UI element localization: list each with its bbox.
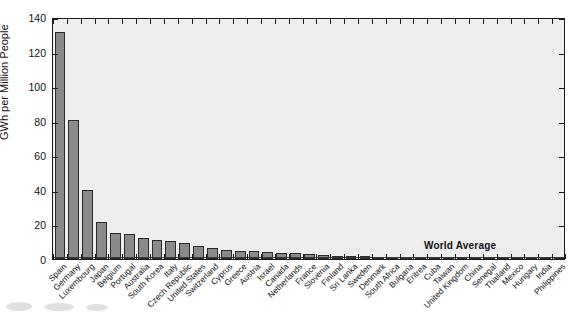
- y-tick-label: 140: [0, 13, 46, 24]
- x-tick-mark: [400, 254, 401, 259]
- x-tick-mark: [441, 254, 442, 259]
- x-tick-mark: [108, 19, 109, 24]
- x-tick-mark: [330, 254, 331, 259]
- x-tick-mark: [330, 19, 331, 24]
- x-tick-mark: [413, 19, 414, 24]
- x-tick-mark: [178, 254, 179, 259]
- x-tick-mark: [441, 19, 442, 24]
- x-tick-mark: [316, 254, 317, 259]
- y-tick-mark: [559, 192, 564, 193]
- x-tick-mark: [455, 19, 456, 24]
- x-tick-mark: [219, 19, 220, 24]
- x-tick-mark: [233, 19, 234, 24]
- y-tick-label: 60: [0, 151, 46, 162]
- scan-artifact: [44, 303, 74, 311]
- bar: [96, 222, 107, 259]
- x-tick-mark: [275, 19, 276, 24]
- x-tick-mark: [164, 19, 165, 24]
- y-tick-mark: [559, 54, 564, 55]
- x-tick-mark: [81, 254, 82, 259]
- x-tick-mark: [344, 254, 345, 259]
- x-tick-mark: [483, 254, 484, 259]
- y-tick-mark: [559, 123, 564, 124]
- x-tick-mark: [427, 19, 428, 24]
- x-tick-mark: [219, 254, 220, 259]
- x-tick-mark: [565, 254, 566, 259]
- x-tick-mark: [483, 19, 484, 24]
- scan-artifact: [86, 304, 108, 311]
- x-tick-mark: [67, 19, 68, 24]
- y-tick-label: 20: [0, 220, 46, 231]
- bar: [124, 234, 135, 259]
- x-tick-mark: [469, 19, 470, 24]
- x-tick-mark: [316, 19, 317, 24]
- bar: [235, 251, 246, 259]
- x-axis-labels: SpainGermanyLuxembourgJapanBelgiumPortug…: [52, 261, 565, 328]
- x-tick-mark: [524, 19, 525, 24]
- x-tick-mark: [247, 254, 248, 259]
- y-tick-mark: [53, 157, 58, 158]
- x-tick-mark: [192, 254, 193, 259]
- y-tick-mark: [53, 226, 58, 227]
- bar: [68, 120, 79, 259]
- world-average-line: [53, 257, 564, 258]
- x-tick-mark: [164, 254, 165, 259]
- x-tick-mark: [386, 19, 387, 24]
- bar: [262, 252, 273, 259]
- x-tick-mark: [122, 19, 123, 24]
- y-tick-mark: [53, 54, 58, 55]
- x-tick-mark: [136, 19, 137, 24]
- plot-area: World Average: [52, 18, 565, 260]
- x-tick-mark: [552, 19, 553, 24]
- y-tick-label: 100: [0, 82, 46, 93]
- x-tick-mark: [303, 19, 304, 24]
- x-tick-mark: [538, 254, 539, 259]
- x-tick-mark: [289, 19, 290, 24]
- bar: [82, 190, 93, 259]
- bar: [55, 32, 66, 259]
- y-tick-label: 0: [0, 255, 46, 266]
- world-average-label: World Average: [424, 240, 496, 251]
- x-tick-mark: [386, 254, 387, 259]
- bars-layer: [53, 19, 564, 259]
- x-tick-mark: [358, 254, 359, 259]
- x-tick-mark: [372, 19, 373, 24]
- x-tick-mark: [150, 19, 151, 24]
- x-tick-mark: [247, 19, 248, 24]
- x-tick-mark: [108, 254, 109, 259]
- y-tick-mark: [559, 226, 564, 227]
- x-tick-mark: [427, 254, 428, 259]
- figure: GWh per Million People 02040608010012014…: [0, 0, 576, 328]
- y-tick-mark: [53, 123, 58, 124]
- y-tick-mark: [559, 88, 564, 89]
- scan-artifact: [6, 302, 32, 311]
- x-tick-mark: [303, 254, 304, 259]
- y-tick-label: 120: [0, 47, 46, 58]
- y-tick-mark: [559, 157, 564, 158]
- y-tick-label: 80: [0, 116, 46, 127]
- y-tick-mark: [53, 88, 58, 89]
- x-tick-mark: [497, 19, 498, 24]
- x-tick-mark: [358, 19, 359, 24]
- bar: [110, 233, 121, 259]
- x-tick-mark: [192, 19, 193, 24]
- x-tick-mark: [469, 254, 470, 259]
- x-tick-mark: [81, 19, 82, 24]
- chart-screenshot: GWh per Million People 02040608010012014…: [0, 0, 576, 328]
- y-tick-mark: [53, 192, 58, 193]
- x-tick-mark: [511, 19, 512, 24]
- y-tick-mark: [559, 19, 564, 20]
- x-tick-mark: [178, 19, 179, 24]
- x-tick-mark: [538, 19, 539, 24]
- x-tick-mark: [261, 19, 262, 24]
- x-tick-mark: [524, 254, 525, 259]
- x-tick-mark: [67, 254, 68, 259]
- x-tick-mark: [511, 254, 512, 259]
- x-tick-mark: [289, 254, 290, 259]
- x-tick-mark: [275, 254, 276, 259]
- x-tick-mark: [206, 254, 207, 259]
- bar: [249, 251, 260, 259]
- x-tick-mark: [261, 254, 262, 259]
- x-tick-mark: [455, 254, 456, 259]
- x-tick-mark: [400, 19, 401, 24]
